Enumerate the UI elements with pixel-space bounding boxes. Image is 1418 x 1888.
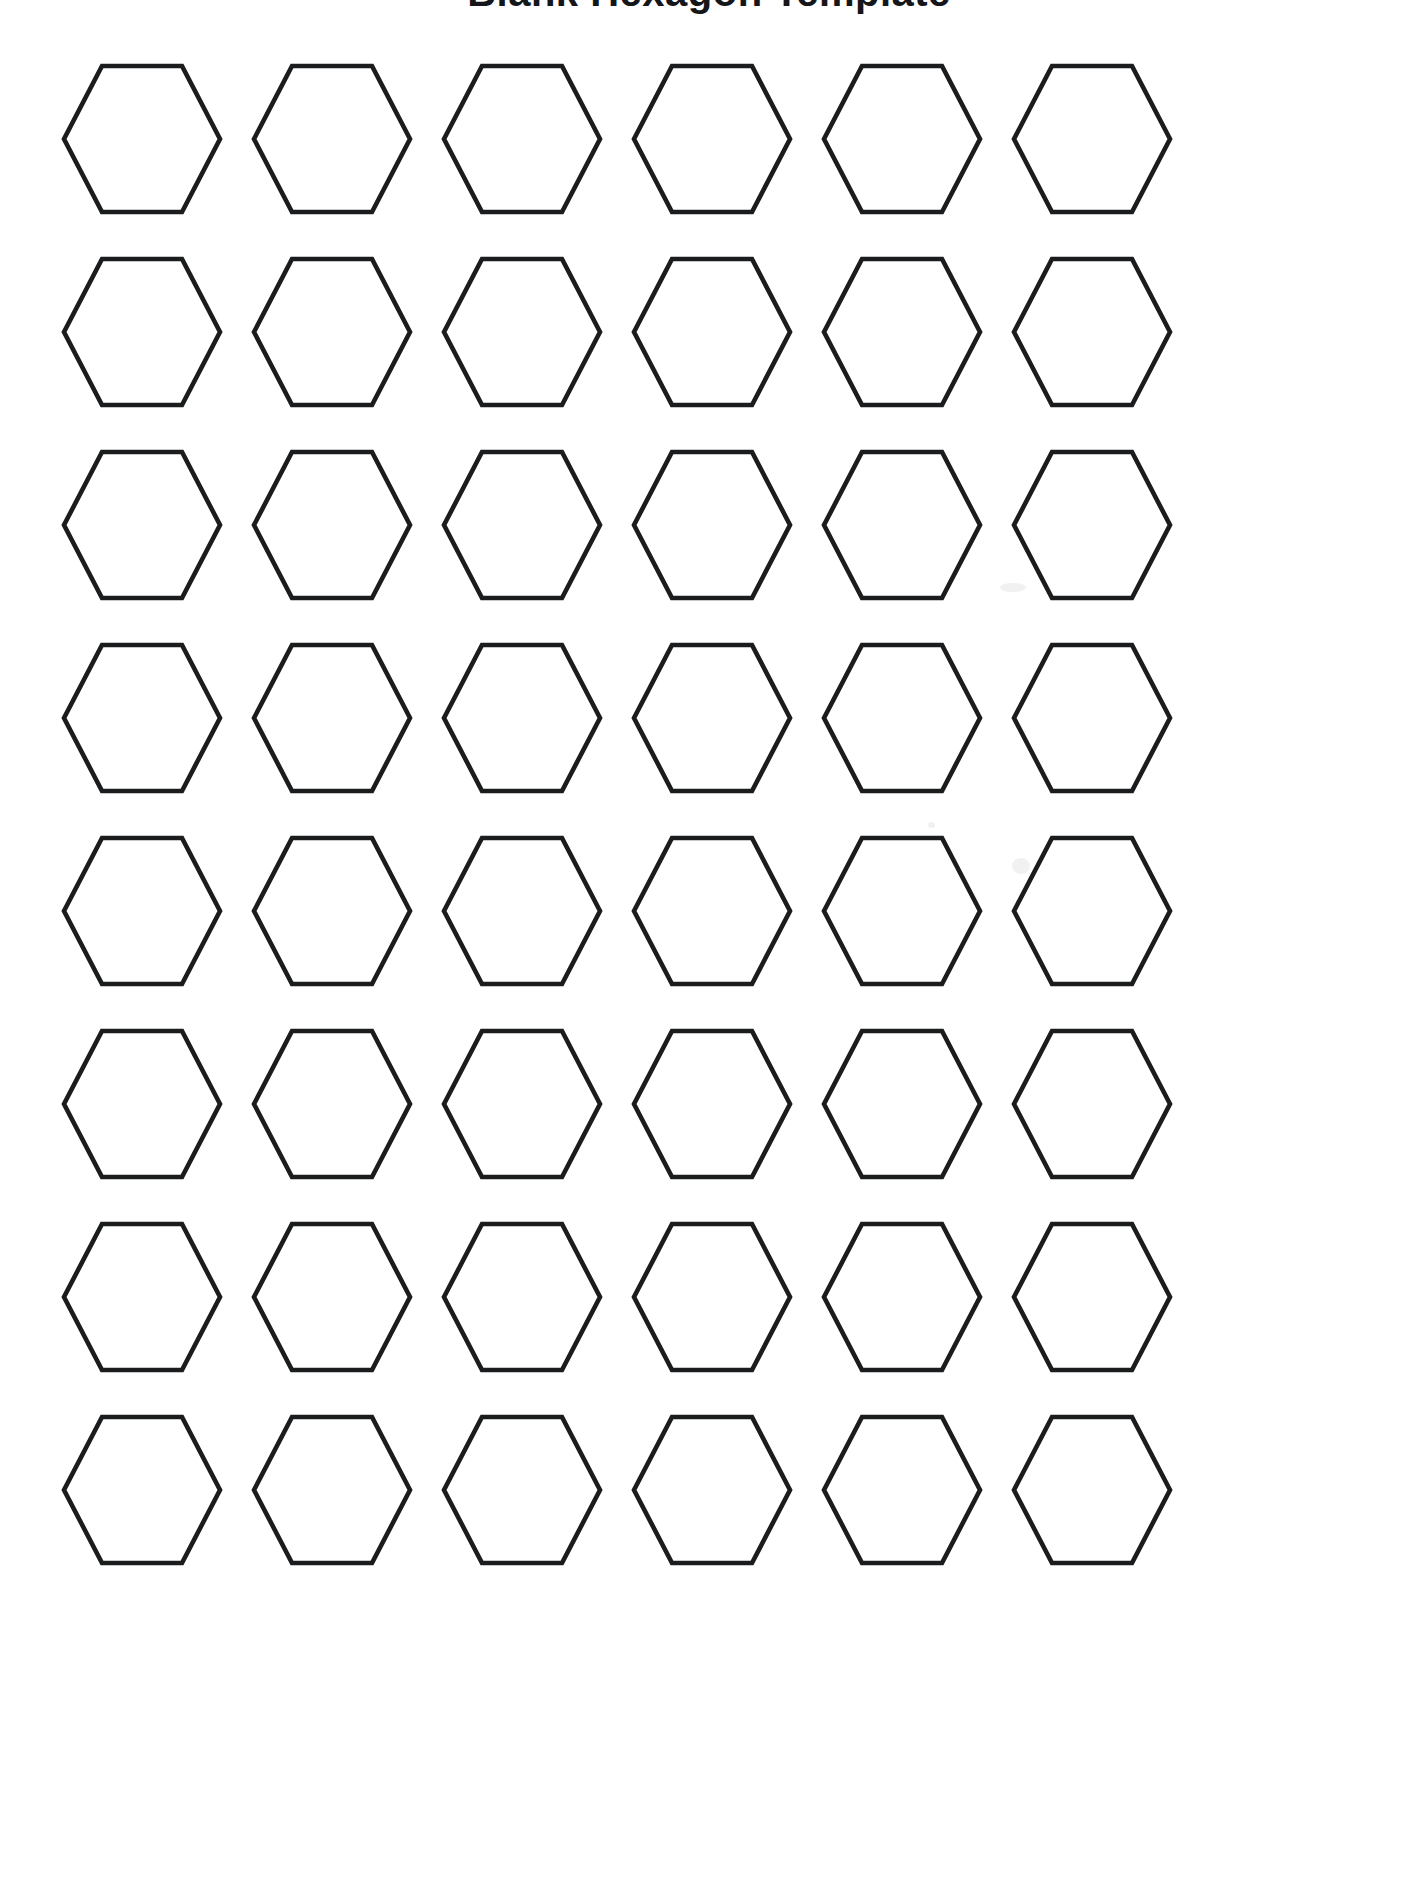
hexagon-outline-icon bbox=[632, 1415, 792, 1565]
hexagon-outline-icon bbox=[62, 1222, 222, 1372]
hexagon-shape[interactable] bbox=[1012, 836, 1172, 986]
hexagon-outline-icon bbox=[442, 1415, 602, 1565]
hexagon-outline-icon bbox=[252, 836, 412, 986]
hexagon-shape[interactable] bbox=[1012, 1415, 1172, 1565]
hexagon-shape[interactable] bbox=[252, 836, 412, 986]
hexagon-outline-icon bbox=[442, 64, 602, 214]
hexagon-shape[interactable] bbox=[62, 836, 222, 986]
hexagon-shape[interactable] bbox=[252, 257, 412, 407]
hexagon-outline-icon bbox=[822, 1029, 982, 1179]
hexagon-outline-icon bbox=[632, 1222, 792, 1372]
hexagon-row bbox=[0, 450, 1418, 600]
hexagon-outline-icon bbox=[632, 450, 792, 600]
hexagon-outline-icon bbox=[442, 643, 602, 793]
hexagon-row bbox=[0, 643, 1418, 793]
hexagon-outline-icon bbox=[1012, 1415, 1172, 1565]
hexagon-shape[interactable] bbox=[822, 257, 982, 407]
hexagon-shape[interactable] bbox=[62, 257, 222, 407]
hexagon-outline-icon bbox=[1012, 257, 1172, 407]
hexagon-outline-icon bbox=[822, 1222, 982, 1372]
hexagon-shape[interactable] bbox=[1012, 1222, 1172, 1372]
hexagon-outline-icon bbox=[252, 257, 412, 407]
hexagon-shape[interactable] bbox=[252, 643, 412, 793]
hexagon-shape[interactable] bbox=[252, 64, 412, 214]
hexagon-shape[interactable] bbox=[442, 257, 602, 407]
hexagon-grid bbox=[0, 0, 1418, 1888]
hexagon-shape[interactable] bbox=[252, 1222, 412, 1372]
hexagon-outline-icon bbox=[442, 1222, 602, 1372]
hexagon-outline-icon bbox=[822, 836, 982, 986]
hexagon-shape[interactable] bbox=[632, 1029, 792, 1179]
hexagon-outline-icon bbox=[632, 1029, 792, 1179]
hexagon-outline-icon bbox=[252, 643, 412, 793]
hexagon-shape[interactable] bbox=[252, 1029, 412, 1179]
hexagon-outline-icon bbox=[62, 257, 222, 407]
hexagon-outline-icon bbox=[632, 257, 792, 407]
hexagon-shape[interactable] bbox=[442, 1415, 602, 1565]
hexagon-shape[interactable] bbox=[442, 450, 602, 600]
hexagon-outline-icon bbox=[62, 64, 222, 214]
hexagon-outline-icon bbox=[442, 836, 602, 986]
hexagon-shape[interactable] bbox=[442, 643, 602, 793]
hexagon-outline-icon bbox=[252, 1222, 412, 1372]
hexagon-outline-icon bbox=[442, 257, 602, 407]
hexagon-shape[interactable] bbox=[442, 64, 602, 214]
hexagon-outline-icon bbox=[252, 450, 412, 600]
hexagon-outline-icon bbox=[252, 1415, 412, 1565]
hexagon-shape[interactable] bbox=[822, 1415, 982, 1565]
hexagon-shape[interactable] bbox=[62, 643, 222, 793]
hexagon-outline-icon bbox=[442, 450, 602, 600]
hexagon-shape[interactable] bbox=[1012, 64, 1172, 214]
hexagon-outline-icon bbox=[1012, 1029, 1172, 1179]
hexagon-outline-icon bbox=[632, 836, 792, 986]
hexagon-outline-icon bbox=[822, 1415, 982, 1565]
hexagon-shape[interactable] bbox=[252, 1415, 412, 1565]
hexagon-outline-icon bbox=[1012, 836, 1172, 986]
hexagon-outline-icon bbox=[822, 643, 982, 793]
hexagon-outline-icon bbox=[1012, 64, 1172, 214]
hexagon-shape[interactable] bbox=[442, 836, 602, 986]
hexagon-row bbox=[0, 1029, 1418, 1179]
hexagon-shape[interactable] bbox=[822, 1029, 982, 1179]
hexagon-shape[interactable] bbox=[632, 257, 792, 407]
hexagon-shape[interactable] bbox=[822, 643, 982, 793]
hexagon-outline-icon bbox=[442, 1029, 602, 1179]
hexagon-shape[interactable] bbox=[1012, 1029, 1172, 1179]
hexagon-shape[interactable] bbox=[632, 1415, 792, 1565]
hexagon-shape[interactable] bbox=[442, 1029, 602, 1179]
hexagon-shape[interactable] bbox=[632, 64, 792, 214]
hexagon-shape[interactable] bbox=[62, 1222, 222, 1372]
hexagon-shape[interactable] bbox=[632, 643, 792, 793]
hexagon-outline-icon bbox=[1012, 643, 1172, 793]
hexagon-outline-icon bbox=[632, 643, 792, 793]
hexagon-shape[interactable] bbox=[822, 1222, 982, 1372]
hexagon-row bbox=[0, 64, 1418, 214]
hexagon-shape[interactable] bbox=[1012, 450, 1172, 600]
hexagon-shape[interactable] bbox=[62, 450, 222, 600]
hexagon-shape[interactable] bbox=[252, 450, 412, 600]
hexagon-shape[interactable] bbox=[62, 64, 222, 214]
hexagon-row bbox=[0, 1415, 1418, 1565]
hexagon-outline-icon bbox=[1012, 450, 1172, 600]
hexagon-row bbox=[0, 836, 1418, 986]
hexagon-shape[interactable] bbox=[1012, 643, 1172, 793]
hexagon-outline-icon bbox=[62, 1029, 222, 1179]
hexagon-shape[interactable] bbox=[822, 64, 982, 214]
hexagon-shape[interactable] bbox=[822, 450, 982, 600]
hexagon-shape[interactable] bbox=[822, 836, 982, 986]
hexagon-shape[interactable] bbox=[632, 450, 792, 600]
hexagon-outline-icon bbox=[1012, 1222, 1172, 1372]
hexagon-outline-icon bbox=[62, 450, 222, 600]
hexagon-shape[interactable] bbox=[632, 836, 792, 986]
hexagon-shape[interactable] bbox=[1012, 257, 1172, 407]
hexagon-row bbox=[0, 257, 1418, 407]
hexagon-outline-icon bbox=[252, 64, 412, 214]
hexagon-shape[interactable] bbox=[442, 1222, 602, 1372]
hexagon-outline-icon bbox=[62, 1415, 222, 1565]
hexagon-row bbox=[0, 1222, 1418, 1372]
hexagon-shape[interactable] bbox=[62, 1415, 222, 1565]
hexagon-shape[interactable] bbox=[62, 1029, 222, 1179]
hexagon-outline-icon bbox=[822, 450, 982, 600]
hexagon-outline-icon bbox=[632, 64, 792, 214]
hexagon-shape[interactable] bbox=[632, 1222, 792, 1372]
